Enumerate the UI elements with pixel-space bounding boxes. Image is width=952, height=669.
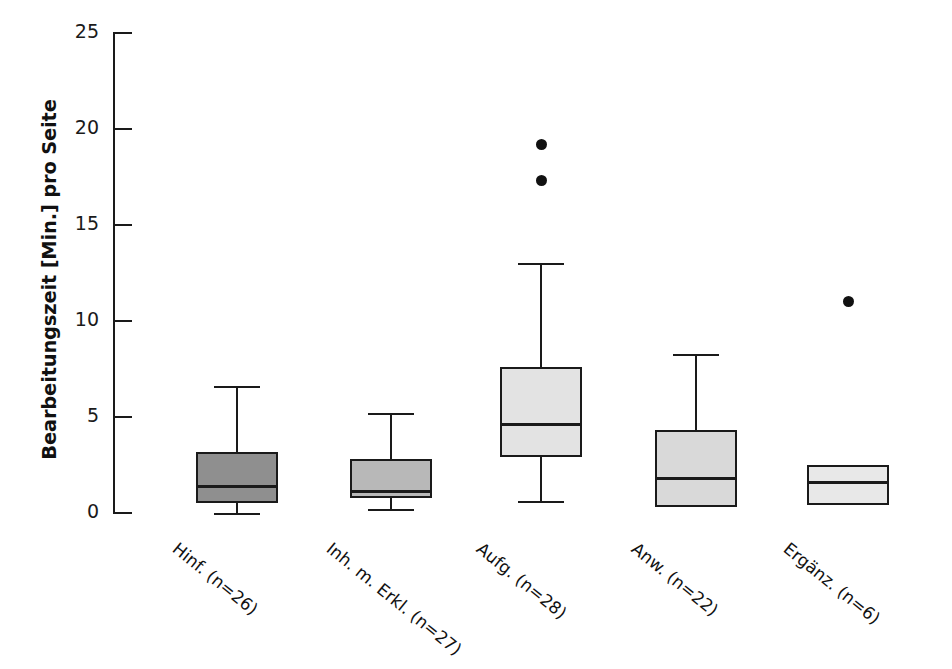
upper-whisker-line [236, 386, 238, 451]
upper-whisker-cap [214, 386, 260, 388]
lower-whisker-line [390, 498, 392, 510]
outlier-point[interactable] [843, 296, 854, 307]
box-iqr-rect[interactable] [655, 430, 737, 507]
y-tick-mark [113, 416, 132, 418]
x-axis-label-5: Ergänz. (n=6) [780, 538, 884, 628]
y-tick-label: 10 [0, 308, 99, 330]
upper-whisker-cap [368, 413, 414, 415]
upper-whisker-cap [673, 354, 719, 356]
y-tick-mark [113, 320, 132, 322]
lower-whisker-cap [368, 509, 414, 511]
x-axis-label-3: Aufg. (n=28) [473, 538, 571, 623]
median-line [350, 490, 432, 493]
y-tick-mark [113, 32, 132, 34]
y-tick-label: 0 [0, 500, 99, 522]
x-axis-label-1: Hinf. (n=26) [169, 538, 262, 619]
median-line [500, 423, 582, 426]
upper-whisker-line [695, 354, 697, 431]
y-tick-mark [113, 224, 132, 226]
lower-whisker-line [236, 503, 238, 513]
lower-whisker-line [540, 457, 542, 501]
y-tick-mark [113, 128, 132, 130]
y-tick-label: 15 [0, 212, 99, 234]
upper-whisker-line [390, 413, 392, 459]
y-tick-label: 25 [0, 20, 99, 42]
y-tick-label: 5 [0, 404, 99, 426]
y-axis-title: Bearbeitungszeit [Min.] pro Seite [38, 45, 61, 515]
median-line [655, 477, 737, 480]
box-iqr-rect[interactable] [807, 465, 889, 505]
outlier-point[interactable] [536, 139, 547, 150]
x-axis-label-4: Anw. (n=22) [628, 538, 723, 620]
median-line [807, 481, 889, 484]
outlier-point[interactable] [536, 175, 547, 186]
upper-whisker-line [540, 263, 542, 367]
median-line [196, 485, 278, 488]
lower-whisker-cap [214, 513, 260, 515]
box-iqr-rect[interactable] [500, 367, 582, 457]
y-tick-label: 20 [0, 116, 99, 138]
y-axis-spine [113, 33, 115, 514]
box-plot-chart: Bearbeitungszeit [Min.] pro Seite 051015… [0, 0, 952, 669]
x-axis-label-2: Inh. m. Erkl. (n=27) [323, 538, 466, 659]
upper-whisker-cap [518, 263, 564, 265]
y-tick-mark [113, 512, 132, 514]
box-iqr-rect[interactable] [196, 452, 278, 504]
lower-whisker-cap [518, 501, 564, 503]
